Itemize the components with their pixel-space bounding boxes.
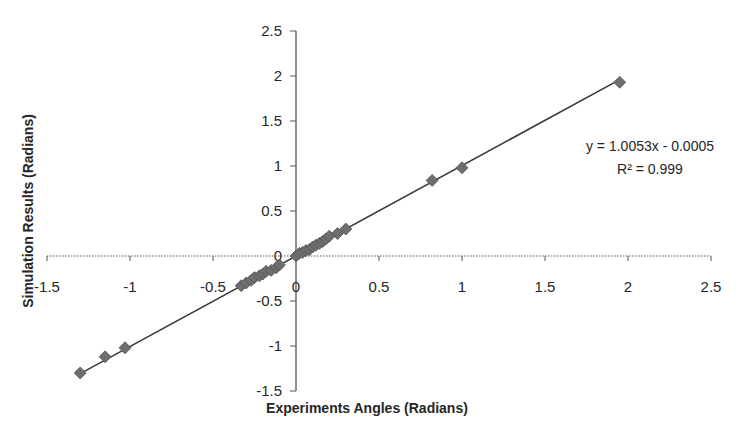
y-tick-label: -1.5 — [256, 382, 282, 399]
x-tick-label: 0.5 — [369, 278, 390, 295]
x-tick-label: 2 — [624, 278, 632, 295]
x-axis: -1.5-1-0.500.511.522.5 — [34, 256, 721, 295]
y-tick-label: 1 — [274, 157, 282, 174]
x-tick-label: 2.5 — [701, 278, 722, 295]
y-axis-title: Simulation Results (Radians) — [20, 114, 36, 308]
x-tick-label: 1.5 — [535, 278, 556, 295]
y-tick-label: 0.5 — [261, 202, 282, 219]
scatter-chart: -1.5-1-0.500.511.522.5 -1.5-1-0.500.511.… — [0, 0, 745, 445]
x-tick-label: -0.5 — [200, 278, 226, 295]
y-tick-label: -0.5 — [256, 292, 282, 309]
r-squared-label: R² = 0.999 — [617, 161, 683, 177]
y-tick-label: 2 — [274, 67, 282, 84]
data-point-marker — [614, 76, 626, 88]
data-point-marker — [99, 351, 111, 363]
data-point-marker — [74, 367, 86, 379]
x-tick-label: -1 — [123, 278, 136, 295]
trendline-equation: y = 1.0053x - 0.0005 — [586, 138, 714, 154]
x-tick-label: 0 — [292, 278, 300, 295]
y-tick-label: 1.5 — [261, 112, 282, 129]
x-tick-label: 1 — [458, 278, 466, 295]
y-tick-label: 2.5 — [261, 22, 282, 39]
x-tick-label: -1.5 — [34, 278, 60, 295]
x-axis-title: Experiments Angles (Radians) — [266, 400, 468, 416]
y-axis: -1.5-1-0.500.511.522.5 — [256, 22, 296, 399]
y-tick-label: -1 — [269, 337, 282, 354]
